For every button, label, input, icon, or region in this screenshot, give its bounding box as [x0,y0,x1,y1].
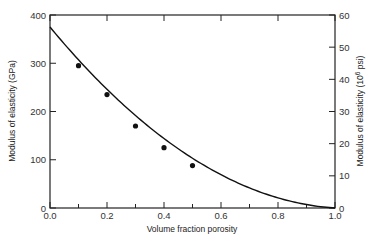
y2-tick-label: 60 [339,10,350,21]
y-tick-label: 300 [30,58,46,69]
y2-tick-label: 10 [339,170,350,181]
fitted-curve [50,27,335,208]
x-tick-label: 0.6 [214,210,227,221]
plot-frame [50,15,335,208]
y-axis-title: Modulus of elasticity (GPa) [7,60,17,162]
y2-tick-label: 0 [339,203,344,214]
data-point [104,92,109,97]
y2-tick-label: 30 [339,106,350,117]
y2-tick-label: 20 [339,138,350,149]
x-tick-label: 0.4 [157,210,170,221]
y2-axis-title: Modulus of elasticity (106 psi) [354,55,365,166]
y-axis-ticks [50,15,56,208]
data-point [133,123,138,128]
y2-tick-label: 50 [339,42,350,53]
y-tick-label: 0 [41,203,46,214]
y-tick-label: 200 [30,106,46,117]
data-point [161,145,166,150]
y-tick-label: 400 [30,10,46,21]
y2-axis-ticks [329,15,335,208]
data-point [76,63,81,68]
y2-axis-tick-labels: 0102030405060 [339,10,350,214]
y-axis-tick-labels: 0100200300400 [30,10,46,214]
chart: 0.00.20.40.60.81.0 0100200300400 0102030… [0,0,377,246]
x-axis-title: Volume fraction porosity [147,224,238,234]
y-tick-label: 100 [30,154,46,165]
data-point [190,163,195,168]
x-axis-tick-labels: 0.00.20.40.60.81.0 [43,210,341,221]
y2-tick-label: 40 [339,74,350,85]
x-axis-ticks [50,15,335,208]
x-tick-label: 0.2 [100,210,113,221]
x-tick-label: 0.8 [271,210,284,221]
